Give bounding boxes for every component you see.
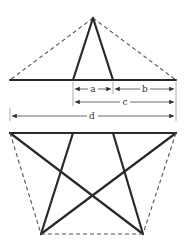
star-diagonal-left xyxy=(10,133,143,234)
dashed-right-edge xyxy=(93,18,176,80)
pentagram xyxy=(10,133,176,234)
apex-left-line xyxy=(73,18,93,80)
label-c: c xyxy=(122,97,127,107)
dashed-pentagon-right xyxy=(143,133,176,234)
dimension-b: b xyxy=(115,84,174,94)
dimension-c: c xyxy=(75,97,174,107)
apex-right-line xyxy=(93,18,113,80)
top-construction xyxy=(10,18,176,80)
star-left-leg xyxy=(41,133,73,234)
pentagram-diagram: a b c d xyxy=(0,0,187,248)
star-right-leg xyxy=(113,133,143,234)
label-a: a xyxy=(90,84,96,94)
dimension-d: d xyxy=(12,110,174,121)
label-d: d xyxy=(89,111,95,121)
star-diagonal-right xyxy=(41,133,176,234)
dashed-left-edge xyxy=(10,18,93,80)
label-b: b xyxy=(142,84,148,94)
dashed-pentagon-left xyxy=(10,133,41,234)
dimension-a: a xyxy=(75,84,111,94)
